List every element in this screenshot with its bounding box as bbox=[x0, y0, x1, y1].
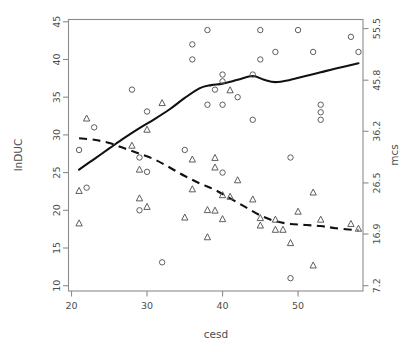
plot-canvas: 20304050 1015202530354045 7.216.926.536.… bbox=[0, 0, 409, 352]
x-axis-title: cesd bbox=[204, 328, 228, 340]
y2-tick-label: 16.9 bbox=[371, 223, 382, 244]
data-point-circle bbox=[190, 57, 195, 62]
data-point-circle bbox=[273, 49, 278, 54]
data-point-triangle bbox=[257, 222, 263, 228]
data-point-triangle bbox=[219, 216, 225, 222]
data-points bbox=[76, 27, 362, 281]
data-point-circle bbox=[91, 125, 96, 130]
data-point-circle bbox=[84, 185, 89, 190]
y2-tick-label: 36.2 bbox=[371, 121, 382, 142]
data-point-triangle bbox=[280, 226, 286, 232]
y-tick-label: 30 bbox=[52, 129, 63, 141]
y-tick-label: 25 bbox=[52, 167, 63, 179]
data-point-triangle bbox=[250, 196, 256, 202]
smoother-curves bbox=[79, 63, 358, 230]
data-point-circle bbox=[205, 102, 210, 107]
data-point-circle bbox=[190, 42, 195, 47]
x-tick-label: 20 bbox=[65, 300, 77, 311]
data-point-circle bbox=[220, 102, 225, 107]
data-point-triangle bbox=[204, 207, 210, 213]
data-point-triangle bbox=[144, 126, 150, 132]
y2-tick-label: 55.5 bbox=[371, 18, 382, 39]
data-point-circle bbox=[356, 49, 361, 54]
data-point-triangle bbox=[310, 189, 316, 195]
data-point-triangle bbox=[189, 186, 195, 192]
y-axis-left-tick-labels: 1015202530354045 bbox=[52, 16, 63, 292]
y2-tick-label: 26.5 bbox=[371, 172, 382, 193]
y2-tick-label: 7.2 bbox=[371, 278, 382, 293]
data-point-triangle bbox=[159, 100, 165, 106]
y-axis-right-title: mcs bbox=[388, 144, 400, 165]
data-point-circle bbox=[144, 169, 149, 174]
y-tick-label: 35 bbox=[52, 91, 63, 103]
data-point-triangle bbox=[212, 207, 218, 213]
data-point-triangle bbox=[189, 156, 195, 162]
y2-tick-label: 45.8 bbox=[371, 70, 382, 91]
data-point-triangle bbox=[76, 220, 82, 226]
y-tick-label: 45 bbox=[52, 16, 63, 28]
data-point-triangle bbox=[272, 226, 278, 232]
data-point-triangle bbox=[76, 187, 82, 193]
x-axis-ticks bbox=[72, 291, 299, 297]
x-tick-label: 40 bbox=[216, 300, 228, 311]
x-tick-label: 50 bbox=[292, 300, 304, 311]
y-axis-left-title: lnDUC bbox=[12, 139, 24, 172]
data-point-circle bbox=[318, 102, 323, 107]
data-point-circle bbox=[129, 87, 134, 92]
y-tick-label: 40 bbox=[52, 53, 63, 65]
data-point-circle bbox=[295, 27, 300, 32]
data-point-circle bbox=[159, 260, 164, 265]
data-point-triangle bbox=[212, 164, 218, 170]
data-point-circle bbox=[144, 109, 149, 114]
x-tick-label: 30 bbox=[141, 300, 153, 311]
data-point-circle bbox=[258, 57, 263, 62]
data-point-triangle bbox=[136, 166, 142, 172]
scatter-plot-figure: 20304050 1015202530354045 7.216.926.536.… bbox=[0, 0, 409, 352]
data-point-circle bbox=[212, 87, 217, 92]
y-axis-right-tick-labels: 7.216.926.536.245.855.5 bbox=[371, 18, 382, 293]
mcs-smoother bbox=[79, 138, 358, 230]
data-point-triangle bbox=[136, 195, 142, 201]
data-point-triangle bbox=[212, 154, 218, 160]
data-point-circle bbox=[288, 275, 293, 280]
data-point-triangle bbox=[235, 177, 241, 183]
data-point-circle bbox=[258, 27, 263, 32]
data-point-triangle bbox=[204, 234, 210, 240]
data-point-circle bbox=[76, 147, 81, 152]
data-point-circle bbox=[235, 94, 240, 99]
data-point-triangle bbox=[318, 216, 324, 222]
data-point-triangle bbox=[348, 220, 354, 226]
data-point-triangle bbox=[227, 87, 233, 93]
data-point-circle bbox=[220, 170, 225, 175]
data-point-circle bbox=[318, 110, 323, 115]
data-point-circle bbox=[318, 117, 323, 122]
data-point-circle bbox=[250, 117, 255, 122]
y-axis-left-ticks bbox=[63, 22, 69, 286]
y-tick-label: 10 bbox=[52, 280, 63, 292]
data-point-triangle bbox=[295, 208, 301, 214]
lnDUC-smoother bbox=[79, 63, 358, 169]
data-point-triangle bbox=[355, 225, 361, 231]
data-point-triangle bbox=[287, 240, 293, 246]
data-point-circle bbox=[205, 27, 210, 32]
data-point-triangle bbox=[182, 214, 188, 220]
data-point-circle bbox=[310, 49, 315, 54]
x-axis-tick-labels: 20304050 bbox=[65, 300, 304, 311]
data-point-triangle bbox=[144, 203, 150, 209]
data-point-triangle bbox=[83, 115, 89, 121]
data-point-triangle bbox=[310, 262, 316, 268]
data-point-circle bbox=[182, 147, 187, 152]
data-point-circle bbox=[137, 208, 142, 213]
y-tick-label: 15 bbox=[52, 242, 63, 254]
data-point-circle bbox=[137, 155, 142, 160]
y-axis-right-ticks bbox=[363, 29, 369, 286]
data-point-circle bbox=[220, 72, 225, 77]
y-tick-label: 20 bbox=[52, 204, 63, 216]
data-point-circle bbox=[348, 34, 353, 39]
data-point-triangle bbox=[272, 216, 278, 222]
data-point-circle bbox=[288, 155, 293, 160]
data-point-triangle bbox=[129, 142, 135, 148]
